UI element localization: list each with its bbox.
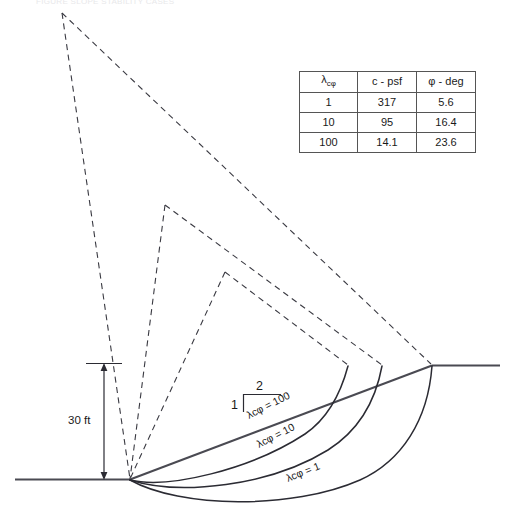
dimension-arrow-up-icon: [101, 363, 108, 371]
radius-line-to-exit-100: [225, 272, 348, 365]
cell-cohesion: 317: [358, 93, 417, 113]
slope-ratio-vertical-label: 1: [231, 398, 238, 412]
radius-line-to-toe-1: [62, 13, 130, 479]
cell-lambda: 1: [300, 93, 358, 113]
table-header-lambda: λcφ: [300, 72, 358, 93]
radius-line-to-exit-1: [62, 13, 431, 364]
radius-triangle-lambda-100: [130, 272, 348, 479]
cell-friction-angle: 5.6: [417, 93, 476, 113]
slope-ratio-horizontal-label: 2: [256, 379, 263, 393]
height-dimension: [86, 363, 122, 480]
radius-line-to-toe-10: [130, 205, 165, 479]
parameter-table: λcφ c - psf φ - deg 1 317 5.6 10 95 16.4…: [299, 71, 476, 153]
table-header-lambda-subscript: cφ: [327, 79, 336, 88]
table-row: 100 14.1 23.6: [300, 133, 476, 153]
curve-label-group: λcφ = 100 λcφ = 10 λcφ = 1: [244, 389, 321, 484]
height-dimension-label: 30 ft: [68, 414, 91, 426]
cell-cohesion: 14.1: [358, 133, 417, 153]
table-row: 1 317 5.6: [300, 93, 476, 113]
table-header-row: λcφ c - psf φ - deg: [300, 72, 476, 93]
cell-lambda: 10: [300, 113, 358, 133]
cell-cohesion: 95: [358, 113, 417, 133]
cell-friction-angle: 23.6: [417, 133, 476, 153]
table-header-friction-angle: φ - deg: [417, 72, 476, 93]
table-header-cohesion: c - psf: [358, 72, 417, 93]
cell-friction-angle: 16.4: [417, 113, 476, 133]
cell-lambda: 100: [300, 133, 358, 153]
radius-line-to-exit-10: [165, 205, 382, 365]
curve-label-lambda-100: λcφ = 100: [244, 389, 291, 421]
table-row: 10 95 16.4: [300, 113, 476, 133]
